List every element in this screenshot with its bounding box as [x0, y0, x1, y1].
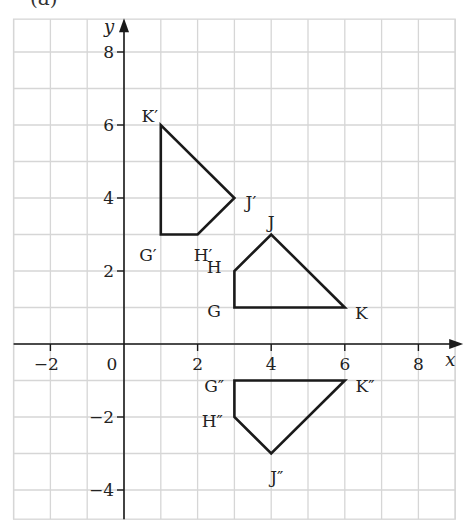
x-axis-arrow-icon: [449, 339, 463, 349]
vertex-label: G′: [139, 245, 157, 265]
x-axis-label: x: [445, 349, 455, 370]
vertex-label: K′: [141, 106, 158, 126]
part-label: (a): [30, 0, 58, 10]
vertex-label: K: [355, 303, 368, 323]
y-axis-arrow-icon: [119, 18, 129, 32]
vertex-label: H″: [202, 411, 223, 431]
vertex-label: G″: [204, 376, 224, 396]
vertex-label: J′: [244, 192, 257, 212]
x-tick-label: 6: [339, 354, 350, 374]
y-tick-label: 2: [103, 261, 114, 281]
y-axis-label: y: [103, 16, 115, 37]
vertex-labels: GHJKG′H′J′K′G″H″J″K″: [139, 106, 374, 487]
vertex-label: G: [207, 301, 221, 321]
coordinate-grid-plot: xy −202468−4−22468 GHJKG′H′J′K′G″H″J″K″: [0, 0, 464, 532]
polygons: [161, 125, 345, 454]
x-tick-label: 8: [413, 354, 424, 374]
origin-label: 0: [107, 354, 118, 374]
y-tick-label: −4: [89, 480, 114, 500]
y-tick-label: 4: [103, 188, 114, 208]
y-tick-label: 6: [103, 115, 114, 135]
vertex-label: J: [266, 212, 275, 232]
y-tick-label: 8: [103, 42, 114, 62]
vertex-label: K″: [356, 376, 375, 396]
vertex-label: J″: [268, 467, 283, 487]
coordinate-plane-figure: (a) xy −202468−4−22468 GHJKG′H′J′K′G″H″J…: [0, 0, 464, 532]
x-tick-label: 4: [266, 354, 277, 374]
vertex-label: H′: [194, 245, 213, 265]
x-tick-label: −2: [34, 354, 59, 374]
y-tick-label: −2: [89, 407, 114, 427]
x-tick-label: 2: [192, 354, 203, 374]
